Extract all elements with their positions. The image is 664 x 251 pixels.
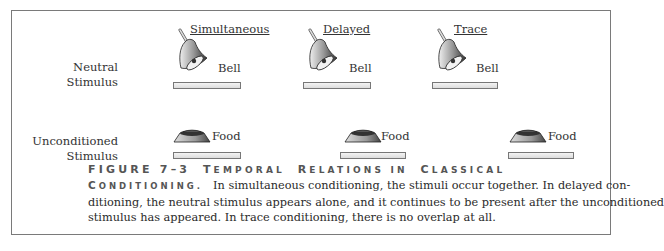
food-bowl-icon	[172, 128, 212, 144]
caption-title-part: R	[298, 163, 310, 176]
caption-line-1: CONDITIONING.In simultaneous conditionin…	[88, 178, 608, 195]
bell-icon	[307, 28, 341, 72]
figure-number: FIGURE 7–3	[88, 163, 190, 176]
row-label-line: Unconditioned	[20, 134, 118, 149]
food-label-simultaneous: Food	[212, 129, 241, 143]
bell-label-delayed: Bell	[349, 61, 372, 75]
caption-title-part: ONDITIONING.	[99, 181, 203, 191]
row-label-line: Neutral	[50, 60, 118, 75]
unconditioned-stimulus-bar-simultaneous	[173, 152, 241, 159]
row-label-line: Stimulus	[50, 75, 118, 90]
food-bowl-icon	[343, 128, 383, 144]
row-label-unconditioned-stimulus: Unconditioned Stimulus	[20, 134, 118, 164]
caption-title-part: LASSICAL	[432, 165, 506, 175]
caption-title-part: EMPORAL	[214, 165, 285, 175]
caption-line-3: stimulus has appeared. In trace conditio…	[88, 210, 608, 226]
neutral-stimulus-bar-simultaneous	[173, 82, 241, 89]
caption-title-part: ELATIONS IN	[309, 165, 408, 175]
bell-icon	[436, 28, 470, 72]
unconditioned-stimulus-bar-trace	[508, 152, 574, 159]
bell-label-trace: Bell	[476, 61, 499, 75]
bell-icon	[177, 28, 211, 72]
bell-label-simultaneous: Bell	[218, 61, 241, 75]
food-label-trace: Food	[548, 129, 577, 143]
neutral-stimulus-bar-delayed	[303, 82, 371, 89]
food-label-delayed: Food	[381, 129, 410, 143]
row-label-line: Stimulus	[20, 149, 118, 164]
caption-text: In simultaneous conditioning, the stimul…	[213, 179, 630, 192]
unconditioned-stimulus-bar-delayed	[340, 152, 406, 159]
caption-title-part: T	[203, 163, 214, 176]
caption-body: CONDITIONING.In simultaneous conditionin…	[88, 178, 608, 226]
caption-heading: FIGURE 7–3 TEMPORAL RELATIONS IN CLASSIC…	[88, 163, 505, 176]
caption-title-part: C	[88, 179, 99, 191]
caption-title-part: C	[421, 163, 432, 176]
neutral-stimulus-bar-trace	[432, 82, 498, 89]
food-bowl-icon	[508, 128, 548, 144]
row-label-neutral-stimulus: Neutral Stimulus	[50, 60, 118, 90]
caption-line-2: ditioning, the neutral stimulus appears …	[88, 195, 608, 211]
